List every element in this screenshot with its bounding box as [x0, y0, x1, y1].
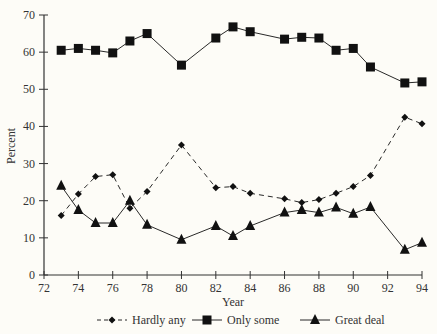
diamond-marker: [212, 184, 219, 191]
square-marker: [177, 61, 186, 70]
y-tick-label: 10: [23, 231, 35, 245]
y-tick-label: 50: [23, 82, 35, 96]
x-tick-label: 86: [279, 281, 291, 295]
triangle-marker: [331, 201, 341, 211]
square-marker: [314, 34, 323, 43]
diamond-marker: [333, 190, 340, 197]
legend-diamond-icon: [109, 317, 116, 324]
diamond-marker: [247, 190, 254, 197]
diamond-marker: [419, 120, 426, 127]
legend-label: Only some: [227, 313, 279, 327]
triangle-marker: [417, 237, 427, 247]
x-tick-label: 90: [347, 281, 359, 295]
x-tick-label: 76: [107, 281, 119, 295]
square-marker: [332, 46, 341, 55]
triangle-marker: [280, 207, 290, 217]
triangle-marker: [297, 204, 307, 214]
triangle-marker: [211, 220, 221, 230]
y-tick-label: 20: [23, 194, 35, 208]
series-layer: [56, 22, 427, 253]
square-marker: [74, 44, 83, 53]
y-tick-label: 30: [23, 157, 35, 171]
legend-item-hardly-any: Hardly any: [97, 313, 186, 327]
legend: Hardly anyOnly someGreat deal: [97, 313, 385, 327]
triangle-marker: [365, 201, 375, 211]
square-marker: [229, 22, 238, 31]
square-marker: [280, 35, 289, 44]
legend-label: Hardly any: [132, 313, 186, 327]
square-marker: [246, 27, 255, 36]
square-marker: [91, 46, 100, 55]
diamond-marker: [350, 183, 357, 190]
series-only-some: [57, 22, 427, 87]
triangle-marker: [91, 217, 101, 227]
legend-square-icon: [203, 316, 212, 325]
series-line-hardly-any: [61, 117, 422, 215]
legend-item-great-deal: Great deal: [300, 313, 385, 327]
square-marker: [418, 77, 427, 86]
square-marker: [400, 78, 409, 87]
y-axis-title: Percent: [4, 127, 18, 164]
square-marker: [211, 34, 220, 43]
square-marker: [297, 33, 306, 42]
x-axis-title: Year: [222, 295, 244, 309]
x-tick-label: 82: [210, 281, 222, 295]
x-tick-label: 88: [313, 281, 325, 295]
triangle-marker: [56, 180, 66, 190]
diamond-marker: [109, 171, 116, 178]
diamond-marker: [315, 196, 322, 203]
x-tick-label: 84: [244, 281, 256, 295]
square-marker: [108, 48, 117, 57]
legend-triangle-icon: [310, 314, 320, 324]
x-tick-label: 72: [38, 281, 50, 295]
series-great-deal: [56, 180, 427, 254]
series-line-great-deal: [61, 186, 422, 250]
square-marker: [366, 63, 375, 72]
x-tick-label: 94: [416, 281, 428, 295]
diamond-marker: [281, 195, 288, 202]
y-tick-label: 40: [23, 119, 35, 133]
square-marker: [143, 29, 152, 38]
x-tick-label: 80: [175, 281, 187, 295]
diamond-marker: [367, 172, 374, 179]
triangle-marker: [125, 195, 135, 205]
y-tick-label: 70: [23, 8, 35, 22]
x-tick-label: 74: [72, 281, 84, 295]
square-marker: [349, 44, 358, 53]
axes: 010203040506070727476788082848688909294: [23, 8, 428, 295]
square-marker: [57, 46, 66, 55]
legend-label: Great deal: [335, 313, 385, 327]
legend-item-only-some: Only some: [192, 313, 279, 327]
x-tick-label: 92: [382, 281, 394, 295]
square-marker: [125, 37, 134, 46]
diamond-marker: [401, 114, 408, 121]
y-tick-label: 60: [23, 45, 35, 59]
y-tick-label: 0: [29, 268, 35, 282]
triangle-marker: [228, 230, 238, 240]
diamond-marker: [230, 183, 237, 190]
x-tick-label: 78: [141, 281, 153, 295]
line-chart: 010203040506070727476788082848688909294 …: [0, 0, 437, 334]
